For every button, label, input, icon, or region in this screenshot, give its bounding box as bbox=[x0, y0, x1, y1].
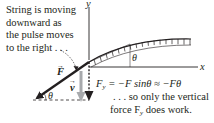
vector-arrow-icon: → bbox=[69, 76, 76, 87]
x-axis-label: x bbox=[200, 61, 205, 72]
vector-arrow-icon: → bbox=[57, 61, 64, 72]
angle-arc-lower bbox=[44, 93, 46, 100]
theta-label-lower: θ bbox=[48, 90, 53, 101]
velocity-arrow bbox=[77, 71, 86, 102]
theta-label-upper: θ bbox=[132, 52, 137, 63]
string-pulse bbox=[89, 39, 191, 67]
caption-line: the pulse moves bbox=[6, 29, 76, 42]
y-axis-label: y bbox=[86, 0, 91, 9]
force-label: → F bbox=[57, 66, 64, 77]
caption-line: to the right . . . bbox=[6, 42, 76, 55]
work-note: . . . so only the vertical force Fy does… bbox=[113, 91, 209, 119]
velocity-label: → v bbox=[70, 82, 75, 93]
caption-line: String is moving bbox=[6, 4, 76, 17]
note-line: force Fy does work. bbox=[110, 104, 209, 120]
caption-line: downward as bbox=[6, 17, 76, 30]
note-line: . . . so only the vertical bbox=[113, 91, 209, 104]
vertical-force-arrow bbox=[85, 62, 94, 101]
caption-text: String is moving downward as the pulse m… bbox=[6, 4, 76, 54]
